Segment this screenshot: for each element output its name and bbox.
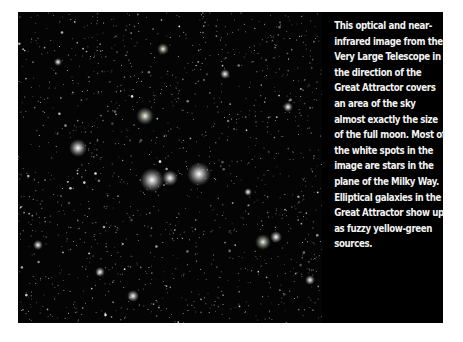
caption-panel: This optical and near-infrared image fro… bbox=[329, 12, 443, 323]
starfield-graphic bbox=[18, 12, 322, 323]
caption-text: This optical and near-infrared image fro… bbox=[329, 12, 449, 252]
starfield-image bbox=[18, 12, 322, 323]
figure: This optical and near-infrared image fro… bbox=[18, 12, 443, 323]
